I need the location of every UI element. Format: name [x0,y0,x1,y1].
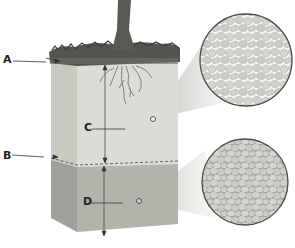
lower-sample-point [137,199,142,204]
upper-sample-point [151,117,156,122]
label-a: A [3,54,12,65]
lower-layer-magnifier [200,137,290,227]
soil-block-side [51,62,77,232]
tree-trunk [112,0,135,50]
soil-block-front [77,60,178,232]
soil-diagram: A B C D [0,0,295,248]
label-b: B [3,150,11,161]
soil-profile-illustration [0,0,295,248]
label-c: C [84,122,92,133]
label-d: D [83,196,92,207]
